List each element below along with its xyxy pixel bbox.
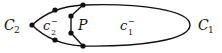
label-c2-minus-sub: 2: [51, 28, 56, 37]
label-c2-sub: 2: [14, 25, 20, 35]
label-c2-minus-main: c: [43, 18, 51, 33]
label-c1-minus: c − 1: [120, 17, 135, 37]
vertex-bottom-right: [80, 43, 85, 48]
label-c1: C 1: [198, 17, 214, 35]
label-c1-sub: 1: [208, 25, 214, 35]
vertex-top-left: [52, 7, 57, 12]
vertex-bottom-left: [52, 37, 57, 42]
label-c2: C 2: [4, 17, 20, 35]
vertex-top-right: [80, 2, 85, 7]
label-c1-minus-main: c: [120, 18, 128, 33]
label-p: P: [77, 17, 88, 33]
label-c2-minus-sup: −: [51, 17, 58, 26]
label-c2-minus: c − 2: [43, 17, 58, 37]
vertex-p-bottom: [68, 30, 73, 35]
label-c1-minus-sub: 1: [128, 28, 133, 37]
label-c1-minus-sup: −: [128, 17, 135, 26]
vertex-c2: [29, 22, 34, 27]
curve-diagram: C 2 c − 2 P c − 1 C 1: [0, 0, 222, 53]
vertex-p-top: [68, 13, 73, 18]
